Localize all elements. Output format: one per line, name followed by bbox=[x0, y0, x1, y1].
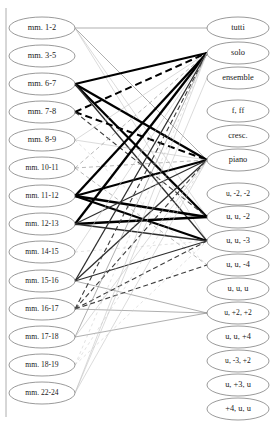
left-node-5[interactable]: mm. 10-11 bbox=[9, 157, 75, 179]
left-node-13[interactable]: mm. 22-24 bbox=[9, 382, 75, 404]
right-node-0[interactable]: tutti bbox=[207, 17, 269, 39]
right-node-4[interactable]: cresc. bbox=[207, 125, 269, 147]
right-node-label: u, u, u bbox=[228, 284, 250, 293]
left-node-0[interactable]: mm. 1-2 bbox=[9, 17, 75, 39]
right-node-label: u, u, +4 bbox=[225, 332, 251, 341]
right-node-11[interactable]: u, +2, +2 bbox=[207, 302, 269, 324]
right-node-label: +4, u, u bbox=[225, 404, 251, 413]
left-node-label: mm. 6-7 bbox=[28, 79, 56, 88]
right-node-label: u, -2, -2 bbox=[226, 189, 250, 198]
right-node-13[interactable]: u, -3, +2 bbox=[207, 350, 269, 372]
right-node-12[interactable]: u, u, +4 bbox=[207, 326, 269, 348]
left-node-11[interactable]: mm. 17-18 bbox=[9, 326, 75, 348]
graph-edge bbox=[75, 309, 207, 313]
right-node-label: solo bbox=[231, 48, 245, 57]
left-node-3[interactable]: mm. 7-8 bbox=[9, 101, 75, 123]
left-node-2[interactable]: mm. 6-7 bbox=[9, 73, 75, 95]
right-node-label: u, -3, +2 bbox=[225, 356, 251, 365]
right-node-label: u, +3, u bbox=[225, 380, 251, 389]
left-node-label: mm. 10-11 bbox=[25, 163, 58, 172]
graph-edge bbox=[75, 140, 207, 160]
right-node-10[interactable]: u, u, u bbox=[207, 278, 269, 300]
right-node-1[interactable]: solo bbox=[207, 42, 269, 64]
left-node-1[interactable]: mm. 3-5 bbox=[9, 45, 75, 67]
graph-edge bbox=[75, 224, 207, 241]
left-node-6[interactable]: mm. 11-12 bbox=[9, 185, 75, 207]
edge-layer bbox=[75, 28, 207, 393]
left-node-label: mm. 17-18 bbox=[25, 332, 59, 341]
graph-edge bbox=[75, 53, 207, 309]
left-node-8[interactable]: mm. 14-15 bbox=[9, 241, 75, 263]
diagram-canvas: mm. 1-2mm. 3-5mm. 6-7mm. 7-8mm. 8-9mm. 1… bbox=[0, 0, 274, 425]
left-node-9[interactable]: mm. 15-16 bbox=[9, 270, 75, 292]
right-node-3[interactable]: f, ff bbox=[207, 100, 269, 122]
left-node-label: mm. 1-2 bbox=[28, 23, 56, 32]
right-node-label: tutti bbox=[231, 23, 245, 32]
left-node-label: mm. 15-16 bbox=[25, 276, 59, 285]
right-node-6[interactable]: u, -2, -2 bbox=[207, 183, 269, 205]
right-node-label: cresc. bbox=[228, 131, 247, 140]
left-node-12[interactable]: mm. 18-19 bbox=[9, 354, 75, 376]
right-node-15[interactable]: +4, u, u bbox=[207, 398, 269, 420]
left-node-4[interactable]: mm. 8-9 bbox=[9, 129, 75, 151]
right-node-label: piano bbox=[229, 155, 248, 164]
left-node-label: mm. 16-17 bbox=[25, 304, 59, 313]
graph-edge bbox=[75, 281, 207, 313]
right-node-label: ensemble bbox=[222, 73, 254, 82]
right-node-label: u, u, -2 bbox=[226, 212, 250, 221]
right-node-9[interactable]: u, u, -4 bbox=[207, 254, 269, 276]
left-node-label: mm. 3-5 bbox=[28, 51, 56, 60]
left-node-label: mm. 7-8 bbox=[28, 107, 56, 116]
left-node-10[interactable]: mm. 16-17 bbox=[9, 298, 75, 320]
right-node-14[interactable]: u, +3, u bbox=[207, 374, 269, 396]
right-node-label: u, u, -3 bbox=[226, 236, 250, 245]
right-node-label: u, +2, +2 bbox=[224, 308, 252, 317]
left-node-7[interactable]: mm. 12-13 bbox=[9, 213, 75, 235]
left-node-label: mm. 18-19 bbox=[25, 360, 59, 369]
graph-edge bbox=[75, 160, 207, 337]
right-node-2[interactable]: ensemble bbox=[207, 67, 269, 89]
left-node-label: mm. 12-13 bbox=[25, 219, 59, 228]
left-node-label: mm. 11-12 bbox=[25, 191, 58, 200]
left-node-label: mm. 22-24 bbox=[25, 388, 59, 397]
right-node-7[interactable]: u, u, -2 bbox=[207, 206, 269, 228]
right-node-8[interactable]: u, u, -3 bbox=[207, 230, 269, 252]
right-node-label: f, ff bbox=[232, 106, 245, 115]
right-node-5[interactable]: piano bbox=[207, 149, 269, 171]
bipartite-graph-svg: mm. 1-2mm. 3-5mm. 6-7mm. 7-8mm. 8-9mm. 1… bbox=[0, 0, 274, 425]
graph-edge bbox=[75, 313, 207, 337]
right-node-label: u, u, -4 bbox=[226, 260, 251, 269]
left-node-label: mm. 14-15 bbox=[25, 247, 59, 256]
left-node-label: mm. 8-9 bbox=[28, 135, 56, 144]
